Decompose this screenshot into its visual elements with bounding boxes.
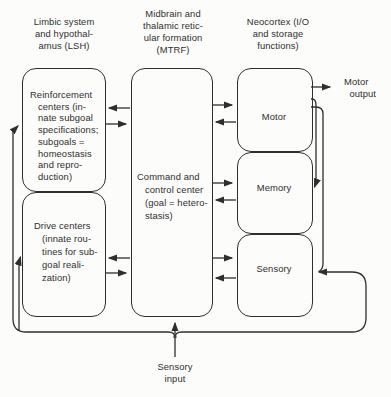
path-motor-feedback-to-sensory [311, 107, 323, 272]
connector-svg [0, 0, 391, 397]
diagram-canvas: Limbic system and hypothal- amus (LSH) M… [0, 0, 391, 397]
path-sensory-loop-to-sensory-box [176, 272, 366, 338]
path-motor-feedback-to-memory [311, 99, 316, 187]
path-sensory-loop-to-reinforcement [13, 126, 174, 338]
path-sensory-loop-to-drive [19, 257, 21, 331]
